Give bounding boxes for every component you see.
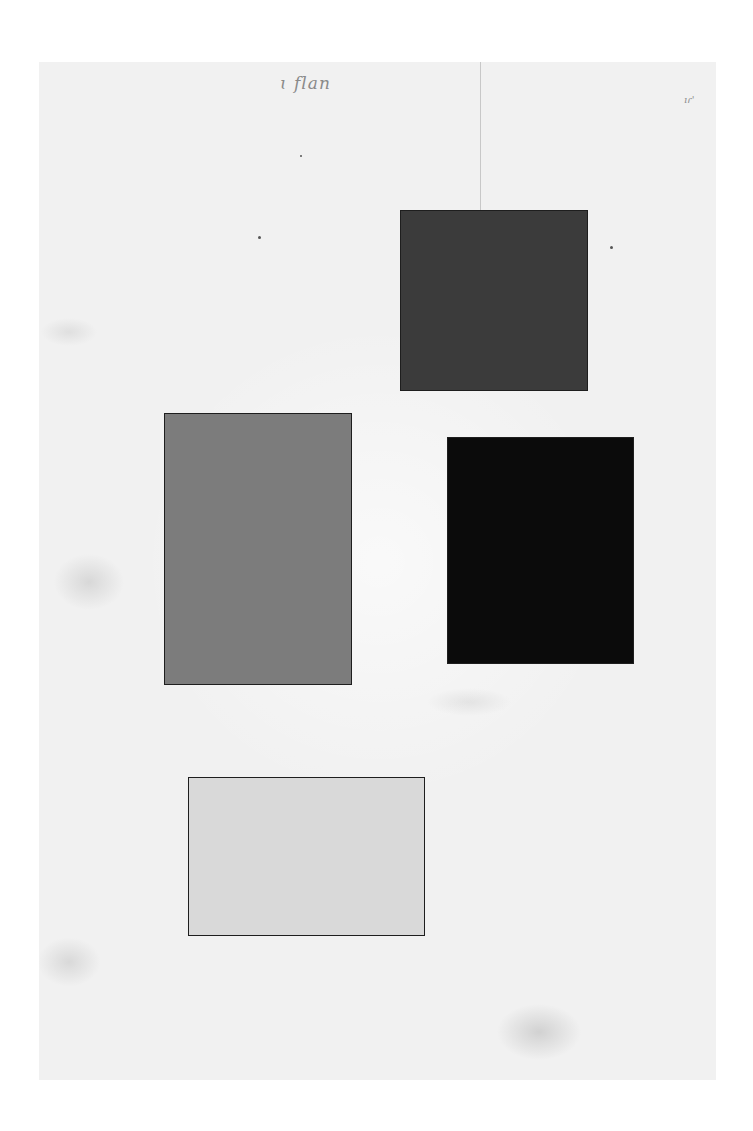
pencil-inscription: ɩ flan — [280, 73, 331, 93]
paper-speck — [258, 236, 261, 239]
paper-speck — [300, 155, 302, 157]
black-rectangle — [447, 437, 634, 664]
light-gray-rectangle — [188, 777, 425, 936]
paper-crease — [480, 62, 481, 222]
paper-speck — [610, 246, 613, 249]
medium-gray-rectangle — [164, 413, 352, 685]
corner-pencil-mark: ıɾ' — [684, 94, 694, 105]
dark-gray-square — [400, 210, 588, 391]
